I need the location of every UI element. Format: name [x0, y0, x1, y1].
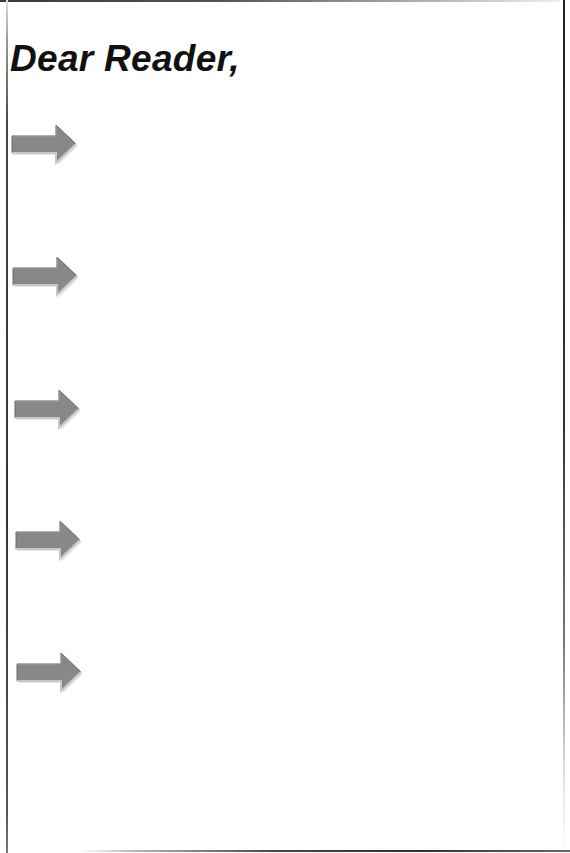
right-arrow-icon: [14, 520, 84, 562]
page-border-top: [0, 0, 560, 2]
page-border-left: [6, 0, 8, 853]
right-arrow-icon: [10, 124, 80, 166]
document-page: Dear Reader,: [0, 0, 570, 853]
page-border-right: [563, 0, 565, 853]
right-arrow-icon: [15, 652, 85, 694]
page-title: Dear Reader,: [10, 38, 240, 80]
page-border-bottom: [80, 850, 570, 852]
right-arrow-icon: [11, 256, 81, 298]
right-arrow-icon: [13, 389, 83, 431]
